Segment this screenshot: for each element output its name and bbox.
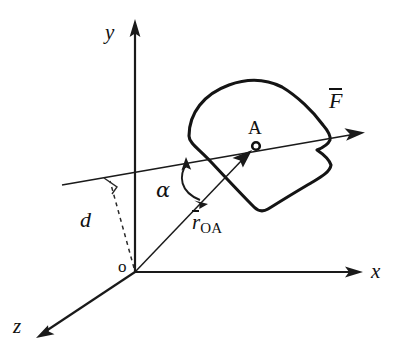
- position-subscript: OA: [200, 220, 222, 236]
- origin-label: o: [118, 258, 127, 275]
- perpendicular-dashed-line: [110, 181, 134, 268]
- x-axis: [135, 267, 363, 278]
- z-axis-label: z: [13, 316, 21, 337]
- force-vector-label: F: [329, 90, 343, 112]
- point-A-marker: [252, 142, 260, 150]
- angle-alpha-arc: [181, 157, 208, 209]
- position-vector-label: rOA: [192, 212, 222, 236]
- position-symbol: r: [192, 210, 200, 234]
- position-label-overbar-wrap: r: [192, 212, 200, 233]
- force-label-overbar-wrap: F: [329, 90, 343, 112]
- position-vector-line: [135, 159, 243, 272]
- force-symbol: F: [329, 88, 343, 113]
- z-axis: [36, 272, 135, 338]
- coordinate-axes: [36, 19, 363, 338]
- angle-alpha-label: α: [156, 180, 170, 201]
- distance-d-label: d: [80, 209, 91, 231]
- position-vector-arrowhead: [233, 150, 253, 168]
- point-A-label: A: [248, 118, 262, 137]
- force-overbar: [329, 88, 342, 90]
- y-axis: [130, 19, 141, 272]
- position-overbar: [192, 210, 199, 212]
- y-axis-label: y: [105, 22, 114, 43]
- perpendicular-distance-d: [104, 178, 134, 268]
- z-axis-line: [46, 272, 135, 331]
- force-line-of-action: [62, 135, 350, 185]
- alpha-arc-path: [182, 163, 200, 200]
- x-axis-label: x: [371, 261, 380, 282]
- right-angle-marker: [104, 178, 117, 194]
- mechanics-diagram-figure: y x z o A α d F rOA: [0, 0, 398, 359]
- force-arrowhead: [344, 128, 365, 141]
- diagram-canvas: [0, 0, 398, 359]
